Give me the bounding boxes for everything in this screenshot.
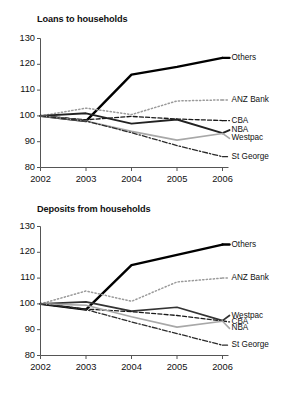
x-tick-label: 2006 bbox=[206, 174, 240, 184]
y-tick-label: 130 bbox=[11, 221, 35, 231]
series-label-others: Others bbox=[232, 240, 257, 249]
x-tick-label: 2003 bbox=[69, 362, 103, 372]
series-label-anz-bank: ANZ Bank bbox=[232, 273, 269, 282]
series-leader-nba bbox=[223, 130, 230, 133]
x-tick-label: 2005 bbox=[160, 174, 194, 184]
x-tick-label: 2005 bbox=[160, 362, 194, 372]
y-tick-label: 130 bbox=[11, 33, 35, 43]
y-tick-label: 100 bbox=[11, 110, 35, 120]
y-tick-label: 100 bbox=[11, 298, 35, 308]
x-tick-label: 2004 bbox=[115, 362, 149, 372]
series-label-cba: CBA bbox=[232, 116, 249, 125]
series-label-anz-bank: ANZ Bank bbox=[232, 95, 269, 104]
x-tick-label: 2003 bbox=[69, 174, 103, 184]
y-tick-label: 120 bbox=[11, 58, 35, 68]
y-tick-label: 120 bbox=[11, 246, 35, 256]
series-label-nba: NBA bbox=[232, 323, 249, 332]
series-label-st-george: St George bbox=[232, 152, 269, 161]
y-tick-label: 90 bbox=[11, 324, 35, 334]
chart-figure: Loans to households Deposits from househ… bbox=[0, 0, 282, 395]
x-tick-label: 2004 bbox=[115, 174, 149, 184]
y-tick-label: 90 bbox=[11, 136, 35, 146]
series-label-st-george: St George bbox=[232, 340, 269, 349]
y-tick-label: 80 bbox=[11, 350, 35, 360]
series-line-st-george bbox=[41, 116, 223, 157]
series-leader-westpac bbox=[223, 316, 230, 321]
series-line-others bbox=[41, 245, 223, 310]
y-tick-label: 110 bbox=[11, 84, 35, 94]
x-tick-label: 2006 bbox=[206, 362, 240, 372]
y-tick-label: 80 bbox=[11, 162, 35, 172]
series-line-anz-bank bbox=[41, 278, 223, 304]
series-leader-westpac bbox=[223, 133, 230, 138]
y-tick-label: 110 bbox=[11, 272, 35, 282]
x-tick-label: 2002 bbox=[24, 174, 58, 184]
series-label-others: Others bbox=[232, 53, 257, 62]
x-tick-label: 2002 bbox=[24, 362, 58, 372]
series-label-westpac: Westpac bbox=[232, 133, 264, 142]
